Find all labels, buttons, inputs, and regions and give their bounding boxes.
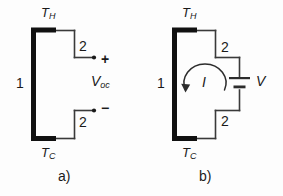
thermoelectric-leg-1-b [172,30,177,139]
hot-junction-bar-b [172,28,197,33]
leg-1-label-b: 1 [157,76,165,90]
cold-junction-bar-b [172,136,197,141]
hot-temperature-label-b: TH [182,6,196,19]
minus-polarity-label: − [101,101,109,115]
cold-temperature-label-b: TC [182,146,196,159]
load-voltage-label: V [256,74,265,88]
battery-long-plate [229,77,250,79]
panel-b-loaded-circuit: TH TC 1 2 2 I V b) [141,0,283,196]
top-lead-2-label: 2 [79,39,87,53]
panel-b-caption: b) [199,169,211,183]
leg-1-label: 1 [16,76,24,90]
positive-terminal-dot [92,55,96,59]
current-arrow-head [181,84,190,93]
panel-b-circuit-drawing [141,0,283,196]
cold-junction-bar [31,136,56,141]
thermoelectric-leg-1 [31,30,36,139]
cold-temperature-label: TC [41,146,55,159]
thermoelectric-figure: TH TC 1 2 2 + − Voc a) [0,0,283,196]
plus-polarity-label: + [101,52,109,66]
panel-a-open-circuit: TH TC 1 2 2 + − Voc a) [0,0,141,196]
hot-junction-bar [31,28,56,33]
current-label: I [202,75,206,89]
bottom-lead-2-label: 2 [79,115,87,129]
bottom-lead-2-label-b: 2 [221,114,229,128]
negative-terminal-dot [92,108,96,112]
panel-a-caption: a) [58,169,70,183]
battery-short-plate [234,86,246,89]
hot-temperature-label: TH [41,6,55,19]
top-lead-2-label-b: 2 [221,40,229,54]
open-circuit-voltage-label: Voc [91,74,110,88]
panel-a-circuit-drawing [0,0,141,196]
